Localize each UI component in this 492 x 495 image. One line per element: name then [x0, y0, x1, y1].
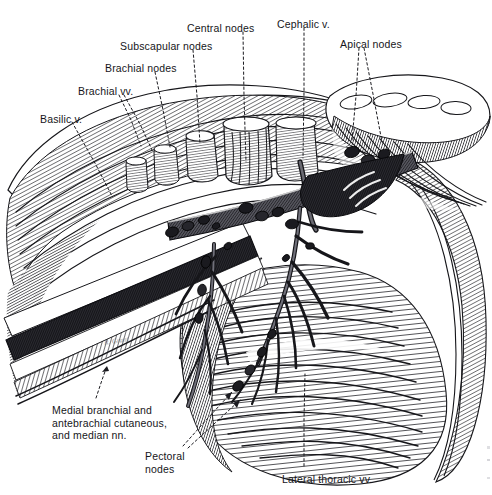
- muscle-stump: [186, 131, 218, 182]
- label-cephalic-vein: Cephalic v.: [277, 18, 330, 31]
- label-brachial-veins: Brachial vv.: [78, 85, 133, 98]
- label-pectoral-nodes: Pectoral nodes: [145, 450, 185, 475]
- label-subscapular-nodes: Subscapular nodes: [120, 40, 212, 53]
- muscle-stump: [223, 117, 272, 185]
- muscle-stump: [276, 117, 318, 181]
- label-apical-nodes: Apical nodes: [340, 38, 402, 51]
- label-lateral-thoracic-veins: Lateral thoracic vv.: [282, 473, 372, 486]
- label-medial-cutaneous-nerves: Medial branchial and antebrachial cutane…: [52, 404, 167, 442]
- label-central-nodes: Central nodes: [187, 22, 254, 35]
- page-edge-mark: [487, 446, 490, 490]
- label-brachial-nodes: Brachial nodes: [105, 62, 177, 75]
- muscle-stump: [126, 157, 148, 193]
- muscle-stump: [154, 145, 179, 185]
- label-basilic-vein: Basilic v.: [40, 113, 82, 126]
